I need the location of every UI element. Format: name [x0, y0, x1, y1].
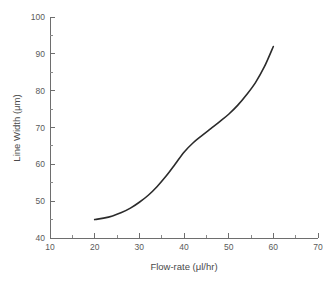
y-tick-label: 50 — [36, 196, 46, 206]
x-tick-label: 20 — [90, 242, 100, 252]
x-tick-label: 70 — [313, 242, 323, 252]
y-tick-label: 90 — [36, 49, 46, 59]
y-tick-label: 80 — [36, 86, 46, 96]
line-chart: 40 50 60 70 80 90 100 10 20 30 40 50 60 … — [0, 0, 334, 284]
y-tick-label: 100 — [31, 12, 45, 22]
x-tick-label: 60 — [269, 242, 279, 252]
y-axis-title: Line Width (μm) — [11, 94, 22, 161]
x-tick-label: 30 — [135, 242, 145, 252]
x-axis-tick-labels: 10 20 30 40 50 60 70 — [45, 242, 323, 252]
y-axis-tick-labels: 40 50 60 70 80 90 100 — [31, 12, 45, 243]
y-tick-label: 60 — [36, 159, 46, 169]
y-tick-label: 40 — [36, 233, 46, 243]
chart-figure: 40 50 60 70 80 90 100 10 20 30 40 50 60 … — [0, 0, 334, 284]
x-tick-label: 10 — [45, 242, 55, 252]
x-axis-title: Flow-rate (μl/hr) — [150, 261, 217, 272]
data-series-line — [95, 46, 274, 219]
x-tick-label: 40 — [179, 242, 189, 252]
x-tick-label: 50 — [224, 242, 234, 252]
y-axis-major-ticks — [50, 17, 55, 238]
y-tick-label: 70 — [36, 123, 46, 133]
x-axis-major-ticks — [50, 233, 318, 238]
